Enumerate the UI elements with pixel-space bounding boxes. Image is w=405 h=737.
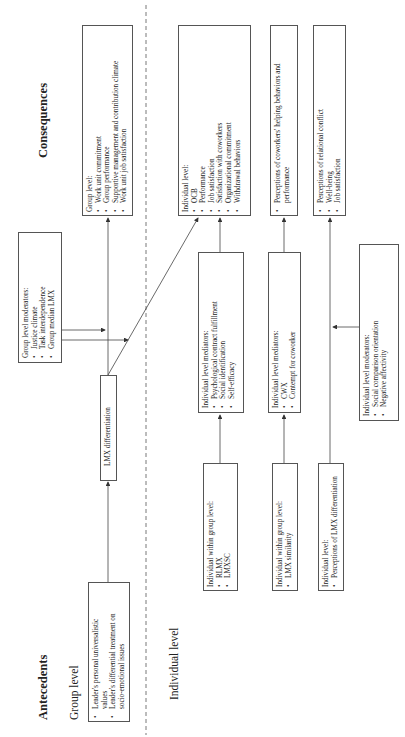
list-item: Perceptions of relational conflict [317, 109, 326, 212]
box-header: Individual level mediators: [272, 331, 281, 408]
box-header: Individual level mediators: [202, 301, 211, 408]
list-item: Contempt for coworker [289, 331, 298, 408]
box-header: Group level: [86, 61, 95, 212]
list-item: Well-being [326, 109, 335, 212]
list-item: Self-efficacy [228, 301, 237, 408]
list-item: LMXSC [224, 501, 233, 587]
list-item: Justice climate [31, 287, 40, 358]
group-consequences-text: Group level: Work unit commitment Group … [86, 61, 129, 212]
list-item: Perceptions of LMX differentiation [331, 476, 340, 587]
list-item: Group performance [103, 61, 112, 212]
list-item-cont: values [101, 613, 110, 718]
list-item: Group median LMX [48, 287, 57, 358]
list-item: Psychological contract fulfillment [211, 301, 220, 408]
list-item: Organizational commitment [225, 122, 234, 212]
list-item-cont: performance [283, 63, 292, 212]
list-item: Job satisfaction [208, 122, 217, 212]
individual-moderators-text: Individual level moderators: Social comp… [363, 321, 389, 416]
list-item: Task interdependence [39, 287, 48, 358]
coworker-consequences-text: Perceptions of coworkers' helping behavi… [274, 63, 291, 212]
list-item: Leader's personal universalistic [92, 613, 101, 718]
group-level-label: Group level [68, 665, 80, 720]
mediators-2-text: Individual level mediators: CWX Contempt… [272, 331, 298, 408]
antecedent-group-text: Leader's personal universalistic values … [92, 613, 126, 718]
list-item: Perceptions of coworkers' helping behavi… [274, 63, 283, 212]
list-item: Work unit job satisfaction [120, 61, 129, 212]
lmx-differentiation-label: LMX differentiation [104, 407, 113, 466]
list-item: RLMX [216, 501, 225, 587]
mediators-1-text: Individual level mediators: Psychologica… [202, 301, 236, 408]
box-header: Individual within group level: [207, 501, 216, 587]
list-item: Work unit commitment [95, 61, 104, 212]
individual-level-label: Individual level [168, 628, 180, 701]
list-item: Social comparison orientation [372, 321, 381, 416]
box-header: Individual within group level: [276, 501, 285, 587]
individual-within-group-2-text: Individual within group level: LMX simil… [276, 501, 293, 587]
individual-within-group-1-text: Individual within group level: RLMX LMXS… [207, 501, 233, 587]
group-moderators-text: Group level moderators: Justice climate … [22, 287, 56, 358]
conflict-consequences-text: Perceptions of relational conflict Well-… [317, 109, 343, 212]
consequences-heading: Consequences [36, 83, 51, 158]
list-item: LMX similarity [285, 501, 294, 587]
list-item: Negative affectivity [380, 321, 389, 416]
box-header: Individual level: [182, 122, 191, 212]
individual-level-antecedent-text: Individual level: Perceptions of LMX dif… [322, 476, 339, 587]
list-item: OCB [191, 122, 200, 212]
antecedents-heading: Antecedents [36, 655, 51, 720]
box-header: Individual level: [322, 476, 331, 587]
list-item: Supportive management and contribution c… [112, 61, 121, 212]
list-item: Social identification [219, 301, 228, 408]
list-item: Withdrawal behaviors [234, 122, 243, 212]
box-header: Individual level moderators: [363, 321, 372, 416]
list-item: Performance [199, 122, 208, 212]
list-item-cont: socio-emotional issues [118, 613, 127, 718]
list-item: Job satisfaction [334, 109, 343, 212]
list-item: Leader's differential treatment on [109, 613, 118, 718]
list-item: CWX [281, 331, 290, 408]
list-item: Satisfaction with coworkers [216, 122, 225, 212]
individual-consequences-text: Individual level: OCB Performance Job sa… [182, 122, 242, 212]
box-header: Group level moderators: [22, 287, 31, 358]
